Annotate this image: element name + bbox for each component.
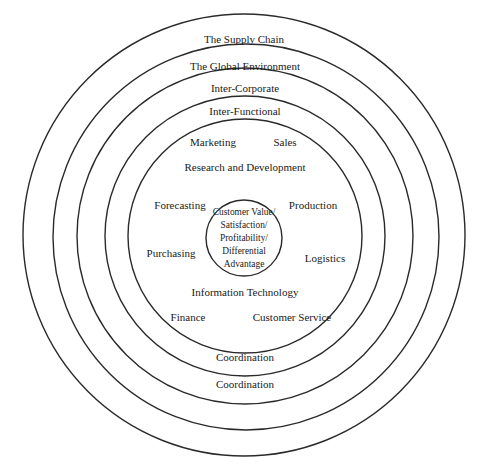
label-production: Production: [289, 200, 337, 211]
label-research-development: Research and Development: [185, 162, 306, 173]
label-supply-chain: The Supply Chain: [204, 34, 284, 45]
core-value-text: Customer Value/ Satisfaction/ Profitabil…: [213, 206, 276, 271]
label-finance: Finance: [171, 312, 206, 323]
label-global-environment: The Global Environment: [190, 61, 300, 72]
label-information-technology: Information Technology: [192, 287, 299, 298]
label-customer-service: Customer Service: [253, 312, 332, 323]
label-logistics: Logistics: [305, 253, 345, 264]
core-line-5: Advantage: [213, 258, 276, 271]
label-coordination-outer: Coordination: [216, 379, 274, 390]
core-line-1: Customer Value/: [213, 206, 276, 219]
core-line-4: Differential: [213, 245, 276, 258]
label-inter-functional: Inter-Functional: [209, 106, 280, 117]
label-marketing: Marketing: [190, 137, 236, 148]
label-inter-corporate: Inter-Corporate: [211, 83, 279, 94]
label-purchasing: Purchasing: [147, 248, 196, 259]
core-line-2: Satisfaction/: [213, 219, 276, 232]
label-coordination-inner: Coordination: [216, 352, 274, 363]
core-line-3: Profitability/: [213, 232, 276, 245]
label-sales: Sales: [273, 137, 296, 148]
label-forecasting: Forecasting: [154, 200, 205, 211]
